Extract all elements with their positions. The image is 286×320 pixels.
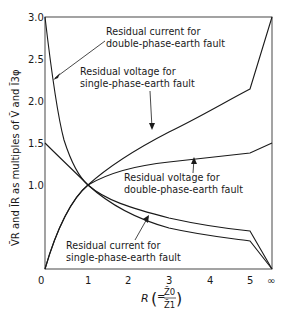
y-axis-label: V̄R and ĪR as multiples of V̄ and Ī3φ bbox=[9, 69, 21, 246]
y-tick-1.5: 1.5 bbox=[28, 138, 44, 149]
curve-residual-voltage-single-phase bbox=[45, 17, 272, 269]
svg-text:single-phase-earth fault: single-phase-earth fault bbox=[66, 252, 181, 263]
y-tick-2.5: 2.5 bbox=[28, 54, 44, 65]
svg-text:R: R bbox=[141, 292, 149, 305]
svg-text:Residual current for: Residual current for bbox=[106, 26, 200, 37]
svg-text:single-phase-earth fault: single-phase-earth fault bbox=[80, 78, 195, 89]
svg-text:Residual voltage for: Residual voltage for bbox=[80, 66, 176, 77]
x-tick-2: 2 bbox=[125, 275, 131, 286]
y-tick-1.0: 1.0 bbox=[28, 180, 44, 191]
x-axis-label: R ( = Z̄0 Z̄1 ) bbox=[141, 286, 182, 310]
y-tick-2.0: 2.0 bbox=[28, 96, 44, 107]
x-tick-4: 4 bbox=[207, 275, 213, 286]
svg-text:): ) bbox=[176, 289, 182, 308]
annotation-residual-voltage-double-phase: Residual voltage for double-phase-earth … bbox=[124, 157, 243, 195]
residual-quantities-chart: 3.0 2.5 2.0 1.5 1.0 0 1 2 3 4 5 ∞ V̄R an… bbox=[0, 0, 286, 320]
y-tick-3.0: 3.0 bbox=[28, 12, 44, 23]
annotation-residual-current-single-phase: Residual current for single-phase-earth … bbox=[66, 215, 181, 263]
x-tick-infinity: ∞ bbox=[267, 275, 275, 286]
svg-text:double-phase-earth fault: double-phase-earth fault bbox=[106, 38, 225, 49]
annotation-residual-voltage-single-phase: Residual voltage for single-phase-earth … bbox=[80, 66, 195, 130]
svg-text:double-phase-earth fault: double-phase-earth fault bbox=[124, 184, 243, 195]
x-tick-3: 3 bbox=[166, 275, 172, 286]
svg-text:Residual current for: Residual current for bbox=[66, 240, 160, 251]
svg-text:Residual voltage for: Residual voltage for bbox=[124, 172, 220, 183]
x-tick-5: 5 bbox=[247, 275, 253, 286]
curve-residual-current-double-phase bbox=[45, 17, 272, 269]
svg-text:Z̄1: Z̄1 bbox=[164, 299, 175, 310]
plot-frame bbox=[45, 17, 272, 269]
svg-text:Z̄0: Z̄0 bbox=[164, 286, 175, 297]
x-tick-1: 1 bbox=[85, 275, 91, 286]
x-tick-0: 0 bbox=[38, 275, 44, 286]
